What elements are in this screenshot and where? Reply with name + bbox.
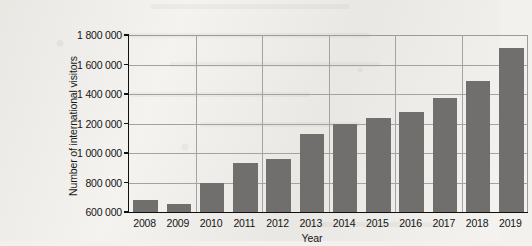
x-axis-tick-label-2012: 2012 (266, 217, 289, 229)
y-axis-tick (124, 64, 129, 66)
y-axis-tick (124, 211, 129, 213)
y-axis-tick-label: 800 000 (85, 177, 122, 189)
bar-2017 (433, 98, 458, 212)
gridline-vertical (395, 35, 396, 212)
y-axis-tick-label: 1 800 000 (77, 29, 122, 41)
x-axis-title: Year (40, 232, 532, 244)
gridline-vertical (462, 35, 463, 212)
gridline-vertical (262, 35, 263, 212)
bar-2019 (499, 48, 524, 212)
bar-2008 (133, 200, 158, 212)
x-axis-tick-label-2014: 2014 (333, 217, 356, 229)
x-axis-tick-label-2019: 2019 (499, 217, 522, 229)
bar-2011 (233, 163, 258, 212)
x-axis-tick-label-2008: 2008 (133, 217, 156, 229)
y-axis-tick (124, 182, 129, 184)
gridline-vertical (196, 35, 197, 212)
y-axis-tick-label: 1 400 000 (77, 88, 122, 100)
x-axis-tick-label-2011: 2011 (233, 217, 255, 229)
x-axis-tick-label-2015: 2015 (366, 217, 389, 229)
gridline-vertical (329, 35, 330, 212)
bar-chart: Number of international visitors 600 000… (40, 16, 532, 246)
x-axis-tick-label-2013: 2013 (300, 217, 323, 229)
bar-2009 (167, 204, 192, 212)
bar-2015 (366, 118, 391, 212)
bar-2016 (399, 112, 424, 212)
y-axis-tick-label: 600 000 (85, 206, 122, 218)
x-axis-tick-label-2018: 2018 (466, 217, 489, 229)
x-axis-tick-label-2009: 2009 (167, 217, 190, 229)
y-axis-tick (124, 152, 129, 154)
page-showthrough-mark (150, 4, 350, 9)
x-axis-title-text: Year (301, 232, 322, 244)
x-axis-tick-label-2017: 2017 (433, 217, 456, 229)
bar-2010 (200, 183, 225, 213)
y-axis-tick-label: 1 000 000 (77, 147, 122, 159)
bar-2018 (466, 81, 491, 212)
y-axis-tick (124, 93, 129, 95)
bar-2014 (333, 124, 358, 213)
x-axis-tick-label-2010: 2010 (200, 217, 223, 229)
y-axis-tick-label: 1 600 000 (77, 59, 122, 71)
bar-2012 (266, 159, 291, 212)
y-axis-tick (124, 34, 129, 36)
y-axis-tick (124, 123, 129, 125)
y-axis-tick-label: 1 200 000 (77, 118, 122, 130)
x-axis-tick-label-2016: 2016 (399, 217, 422, 229)
bar-2013 (300, 134, 325, 212)
plot-area (128, 35, 528, 213)
